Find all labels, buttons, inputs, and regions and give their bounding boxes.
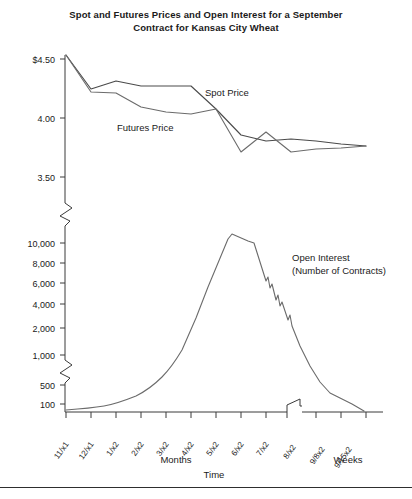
chart-canvas: $4.50 4.00 3.50 Spot Price Futures Price [0, 0, 412, 499]
open-interest-sublabel: (Number of Contracts) [292, 265, 386, 276]
oi-axis-break-mark [60, 360, 72, 383]
oi-ytick-label-1: 8,000 [32, 259, 55, 269]
x-axis-break-mark [287, 399, 302, 412]
spot-price-label: Spot Price [205, 87, 249, 98]
price-ytick-label-2: 3.50 [37, 173, 55, 183]
price-ytick-label-0: $4.50 [32, 55, 55, 65]
x-tick-label-7: 6/x2 [230, 440, 246, 458]
x-tick-label-6: 5/x2 [205, 440, 221, 458]
price-panel: $4.50 4.00 3.50 Spot Price Futures Price [32, 55, 366, 227]
x-axis: 11/x1 12/x1 1/x2 2/x2 3/x2 4/x2 5/x2 6/x… [52, 399, 383, 480]
oi-ytick-label-0: 10,000 [27, 239, 55, 249]
price-axis-break-mark [60, 203, 72, 226]
x-tick-label-8: 7/x2 [255, 440, 271, 458]
chart-figure: Spot and Futures Prices and Open Interes… [0, 0, 412, 499]
x-tick-label-2: 1/x2 [105, 440, 121, 458]
x-group-label-weeks: Weeks [334, 454, 363, 465]
x-axis-title: Time [204, 469, 225, 480]
open-interest-panel: 10,000 8,000 6,000 4,000 2,000 1,000 500… [27, 226, 386, 412]
oi-ytick-label-6: 500 [40, 381, 55, 391]
bottom-rule [0, 487, 412, 488]
open-interest-label: Open Interest [292, 252, 350, 263]
x-group-label-months: Months [160, 454, 191, 465]
oi-ytick-label-2: 6,000 [32, 279, 55, 289]
oi-ytick-label-5: 1,000 [32, 351, 55, 361]
futures-price-label: Futures Price [117, 122, 174, 133]
oi-ytick-label-4: 2,000 [32, 324, 55, 334]
oi-ytick-label-7: 100 [40, 400, 55, 410]
oi-ytick-label-3: 4,000 [32, 300, 55, 310]
futures-price-line [66, 55, 366, 152]
x-tick-label-0: 11/x1 [52, 440, 71, 461]
x-tick-label-3: 2/x2 [130, 440, 146, 458]
x-tick-label-1: 12/x1 [77, 440, 96, 462]
x-tick-label-9: 8/x2 [282, 443, 298, 461]
price-ytick-label-1: 4.00 [37, 114, 55, 124]
x-tick-label-10: 9/8x2 [308, 445, 327, 467]
spot-price-line [66, 55, 366, 146]
